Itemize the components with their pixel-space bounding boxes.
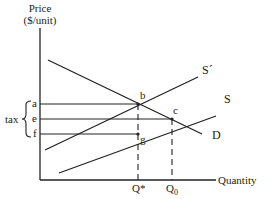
q-zero-label: Q0 — [166, 182, 178, 197]
point-c-label: c — [173, 104, 178, 116]
demand-curve — [48, 60, 202, 134]
point-g-label: g — [140, 133, 146, 145]
supply-label: S — [224, 92, 231, 106]
price-label-f: f — [33, 127, 37, 139]
supply-taxed-label: S´ — [202, 63, 213, 77]
tax-brace-icon — [22, 101, 31, 137]
tax-label: tax — [5, 113, 19, 125]
demand-label: D — [212, 128, 221, 142]
q-star-label: Q* — [132, 182, 145, 194]
q-zero-subscript: 0 — [174, 188, 178, 197]
q-zero-base: Q — [166, 182, 174, 194]
price-label-e: e — [32, 112, 37, 124]
point-c-marker — [170, 117, 173, 120]
price-label-a: a — [32, 97, 37, 109]
tax-incidence-diagram: Price ($/unit) Quantity b c g S´ S D a e… — [0, 0, 273, 199]
point-b-marker — [136, 102, 139, 105]
point-b-label: b — [140, 89, 146, 101]
x-axis-label: Quantity — [218, 174, 257, 186]
y-axis-label-line1: Price — [29, 2, 52, 14]
y-axis-label-line2: ($/unit) — [24, 14, 57, 27]
